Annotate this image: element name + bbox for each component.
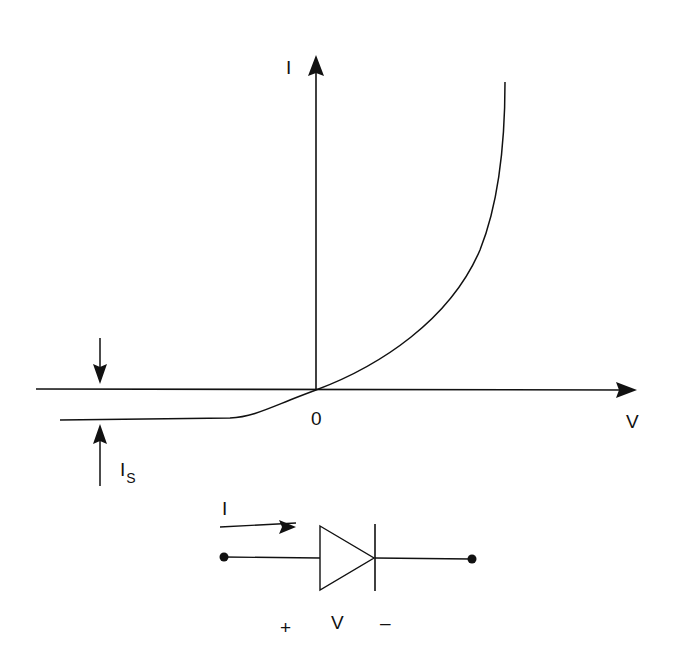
circuit-current-label: I bbox=[222, 499, 227, 518]
saturation-current-subscript: S bbox=[126, 470, 135, 486]
v-axis bbox=[36, 382, 637, 398]
iv-curve bbox=[60, 82, 505, 420]
diode-triangle bbox=[320, 526, 374, 590]
circuit-minus-label: – bbox=[380, 613, 391, 632]
cathode-terminal bbox=[468, 555, 477, 564]
i-axis-arrowhead-icon bbox=[308, 55, 324, 76]
diode-symbol bbox=[220, 520, 477, 591]
down-arrow-icon bbox=[93, 364, 107, 384]
current-direction-arrow-icon bbox=[279, 520, 296, 534]
saturation-current-indicator bbox=[93, 338, 107, 486]
circuit-voltage-label: V bbox=[331, 613, 344, 632]
i-axis-label: I bbox=[286, 58, 291, 77]
anode-terminal bbox=[220, 553, 229, 562]
v-axis-arrowhead-icon bbox=[616, 382, 637, 398]
v-axis-label: V bbox=[626, 412, 639, 431]
iv-characteristic-diagram bbox=[0, 0, 679, 664]
circuit-plus-label: + bbox=[280, 618, 291, 637]
saturation-current-symbol: I bbox=[120, 459, 125, 480]
up-arrow-icon bbox=[93, 424, 107, 444]
i-axis bbox=[308, 55, 324, 390]
origin-label: 0 bbox=[311, 409, 322, 428]
saturation-current-label: IS bbox=[120, 460, 135, 479]
